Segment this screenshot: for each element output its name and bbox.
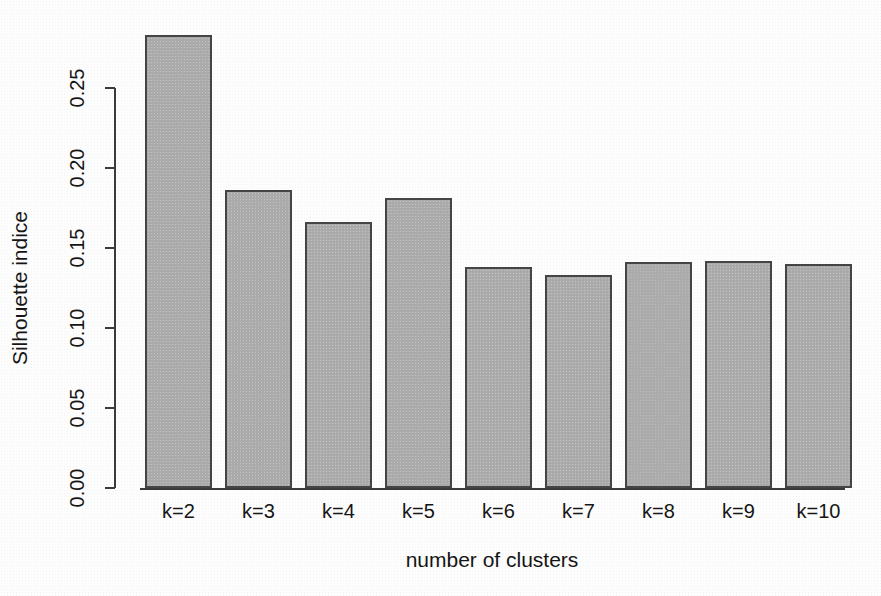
y-axis-tick-label: 0.05	[66, 389, 89, 428]
y-axis-tick	[105, 247, 115, 249]
bar	[305, 222, 372, 488]
bar	[385, 198, 452, 488]
y-axis-tick-label: 0.00	[66, 469, 89, 508]
x-axis-tick-label: k=8	[642, 500, 675, 523]
y-axis-tick	[105, 167, 115, 169]
y-axis-tick	[105, 407, 115, 409]
bar	[705, 261, 772, 488]
x-axis-tick-label: k=2	[162, 500, 195, 523]
bar	[465, 267, 532, 488]
y-axis-tick	[105, 327, 115, 329]
x-axis-tick-label: k=4	[322, 500, 355, 523]
x-axis-tick-label: k=3	[242, 500, 275, 523]
y-axis-tick	[105, 487, 115, 489]
y-axis-title: Silhouette indice	[8, 211, 32, 365]
silhouette-index-bar-chart: 0.000.050.100.150.200.25 Silhouette indi…	[0, 0, 881, 596]
x-axis-tick-label: k=6	[482, 500, 515, 523]
y-axis-tick	[105, 87, 115, 89]
x-axis-tick-label: k=5	[402, 500, 435, 523]
x-axis-line	[140, 488, 845, 490]
y-axis-line	[114, 88, 116, 488]
bar	[545, 275, 612, 488]
x-axis-tick-label: k=7	[562, 500, 595, 523]
bar	[225, 190, 292, 488]
x-axis-title: number of clusters	[406, 548, 579, 572]
y-axis-tick-label: 0.15	[66, 229, 89, 268]
bar	[785, 264, 852, 488]
x-axis-tick-label: k=10	[797, 500, 841, 523]
y-axis-tick-label: 0.10	[66, 309, 89, 348]
y-axis-tick-label: 0.20	[66, 149, 89, 188]
plot-area: 0.000.050.100.150.200.25 Silhouette indi…	[0, 0, 881, 596]
x-axis-tick-label: k=9	[722, 500, 755, 523]
y-axis-tick-label: 0.25	[66, 69, 89, 108]
bar	[625, 262, 692, 488]
bar	[145, 35, 212, 488]
